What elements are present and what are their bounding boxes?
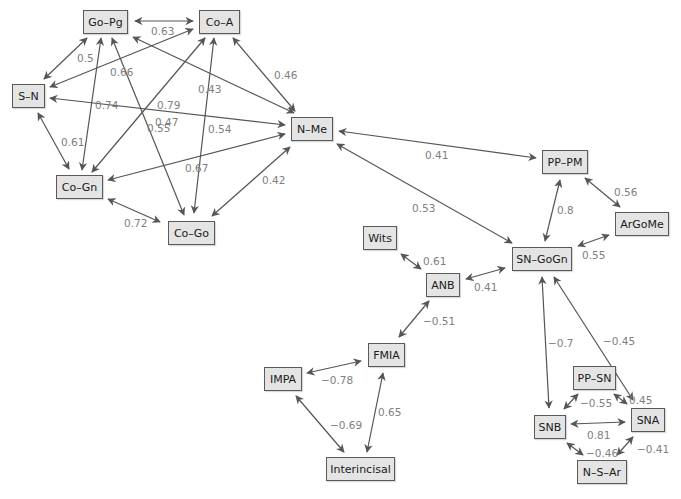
edge-label-CoA-NMe: 0.46 [274, 70, 297, 81]
node-Wits[interactable]: Wits [363, 226, 397, 250]
node-label: ArGoMe [620, 218, 664, 231]
edge-label-PPPM-SNGoGn: 0.8 [557, 205, 574, 216]
edge-label-CoGn-NMe: 0.67 [185, 163, 208, 174]
correlation-diagram: 0.630.50.660.790.460.740.550.470.430.540… [0, 0, 681, 499]
edge-label-PPPM-ArGoMe: 0.56 [614, 187, 637, 198]
node-SN[interactable]: S–N [12, 84, 45, 108]
edge-label-Wits-ANB: 0.61 [423, 256, 446, 267]
edge-SNA-NSAr [617, 437, 633, 455]
edge-label-CoGo-NMe: 0.42 [262, 175, 285, 186]
node-label: Interincisal [330, 463, 390, 476]
node-CoA[interactable]: Co–A [199, 10, 240, 34]
node-ArGoMe[interactable]: ArGoMe [615, 212, 669, 236]
edge-PPSN-SNB [564, 394, 578, 409]
edge-label-PPSN-SNB: −0.55 [580, 398, 612, 409]
node-label: IMPA [270, 373, 296, 386]
node-PPSN[interactable]: PP–SN [573, 366, 616, 390]
edge-label-NMe-PPPM: 0.41 [425, 150, 448, 161]
edge-ArGoMe-SNGoGn [578, 235, 609, 246]
edge-label-GoPg-CoA: 0.63 [151, 26, 174, 37]
edge-Wits-ANB [401, 254, 421, 269]
edge-SNB-SNA [571, 422, 625, 424]
edge-label-IMPA-FMIA: −0.78 [321, 375, 353, 386]
node-SNB[interactable]: SNB [534, 415, 566, 439]
node-label: Co–Gn [62, 181, 97, 194]
node-label: PP–PM [548, 156, 583, 169]
node-label: FMIA [373, 349, 400, 362]
node-label: PP–SN [578, 372, 612, 385]
node-SNA[interactable]: SNA [631, 408, 665, 432]
edge-ANB-SNGoGn [466, 268, 505, 279]
edge-PPSN-SNA [614, 394, 627, 404]
edge-label-SN-NMe: 0.74 [95, 100, 118, 111]
edge-label-IMPA-Interincisal: −0.69 [330, 420, 362, 431]
edge-label-SNB-NSAr: −0.46 [586, 448, 618, 459]
edge-label-GoPg-CoGo: 0.47 [155, 117, 178, 128]
node-label: Co–A [206, 16, 233, 29]
node-label: SNA [637, 414, 660, 427]
edge-label-SNGoGn-SNA: −0.45 [603, 336, 635, 347]
edge-label-CoA-SN: 0.66 [110, 67, 133, 78]
edge-label-CoA-CoGo: 0.54 [208, 124, 231, 135]
node-FMIA[interactable]: FMIA [368, 343, 405, 367]
edge-SNB-NSAr [567, 443, 583, 455]
edge-label-SNB-SNA: 0.81 [587, 430, 610, 441]
edge-IMPA-FMIA [307, 361, 361, 373]
node-CoGo[interactable]: Co–Go [168, 221, 215, 245]
node-ANB[interactable]: ANB [426, 273, 460, 297]
node-label: N–S–Ar [583, 466, 621, 479]
node-label: SN–GoGn [516, 253, 567, 266]
edge-label-GoPg-SN: 0.5 [77, 53, 94, 64]
edge-label-GoPg-NMe: 0.79 [157, 100, 180, 111]
node-PPPM[interactable]: PP–PM [542, 150, 588, 174]
edge-label-FMIA-Interincisal: 0.65 [378, 407, 401, 418]
edge-label-NMe-SNGoGn: 0.53 [412, 203, 435, 214]
edge-label-SNA-NSAr: −0.41 [637, 444, 669, 455]
edge-label-ANB-FMIA: −0.51 [423, 316, 455, 327]
node-GoPg[interactable]: Go–Pg [83, 10, 128, 34]
edge-label-CoA-CoGn: 0.43 [198, 84, 221, 95]
edge-label-SNGoGn-SNB: −0.7 [548, 338, 574, 349]
node-label: Co–Go [174, 227, 209, 240]
edge-label-CoGn-CoGo: 0.72 [124, 218, 147, 229]
edge-label-PPSN-SNA: 0.45 [629, 395, 652, 406]
node-NSAr[interactable]: N–S–Ar [577, 460, 627, 484]
edge-label-SN-CoGn: 0.61 [61, 137, 84, 148]
node-label: Go–Pg [88, 16, 122, 29]
node-NMe[interactable]: N–Me [291, 117, 333, 141]
node-SNGoGn[interactable]: SN–GoGn [512, 247, 572, 271]
node-IMPA[interactable]: IMPA [264, 367, 302, 391]
edge-label-ANB-SNGoGn: 0.41 [474, 282, 497, 293]
node-label: S–N [18, 90, 39, 103]
edge-label-ArGoMe-SNGoGn: 0.55 [582, 250, 605, 261]
node-label: Wits [368, 232, 392, 245]
node-label: N–Me [297, 123, 327, 136]
node-label: SNB [539, 421, 562, 434]
node-label: ANB [431, 279, 454, 292]
node-Interincisal[interactable]: Interincisal [326, 457, 395, 481]
node-CoGn[interactable]: Co–Gn [56, 175, 103, 199]
